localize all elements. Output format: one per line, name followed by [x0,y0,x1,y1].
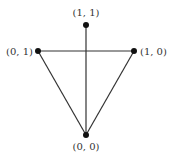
node-bottom [83,132,89,138]
node-right [131,48,137,54]
edge-right-bottom [86,51,134,135]
label-bottom: (0, 0) [73,141,100,152]
edge-left-bottom [38,51,86,135]
label-top: (1, 1) [73,7,100,18]
node-top [83,22,89,28]
node-left [35,48,41,54]
diagram-svg: (1, 1) (0, 1) (1, 0) (0, 0) [0,0,169,157]
edges [38,25,134,135]
label-right: (1, 0) [140,46,167,57]
lattice-diagram: (1, 1) (0, 1) (1, 0) (0, 0) [0,0,169,157]
label-left: (0, 1) [6,46,33,57]
